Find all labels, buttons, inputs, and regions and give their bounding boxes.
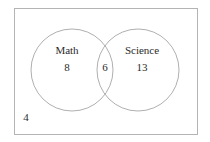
math-set-circle (31, 29, 113, 111)
science-only-count: 13 (137, 62, 148, 73)
intersection-count: 6 (102, 62, 108, 73)
venn-diagram: Math 8 Science 13 6 4 (0, 0, 210, 142)
science-set-label: Science (125, 45, 159, 56)
math-only-count: 8 (64, 62, 70, 73)
outside-sets-count: 4 (23, 112, 29, 123)
math-set-label: Math (55, 45, 78, 56)
